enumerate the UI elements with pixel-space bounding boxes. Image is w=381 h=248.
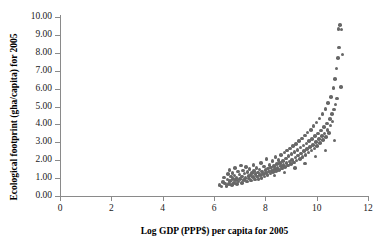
data-point <box>303 134 307 138</box>
data-point <box>309 128 313 132</box>
data-point <box>324 135 328 139</box>
plot-area <box>60 17 368 196</box>
data-point <box>336 56 340 60</box>
x-tick-mark <box>214 196 215 201</box>
x-tick-label: 10 <box>312 203 322 213</box>
data-point <box>303 162 307 166</box>
x-tick-mark <box>60 196 61 201</box>
data-point <box>293 166 297 170</box>
x-tick-mark <box>368 196 369 201</box>
data-point <box>329 95 333 99</box>
data-point <box>327 131 331 135</box>
data-point <box>339 85 343 89</box>
x-tick-mark <box>163 196 164 201</box>
x-tick-mark <box>265 196 266 201</box>
data-point <box>321 138 325 142</box>
x-tick-mark <box>111 196 112 201</box>
x-tick-label: 12 <box>363 203 373 213</box>
x-tick-label: 8 <box>263 203 268 213</box>
x-tick-label: 4 <box>160 203 165 213</box>
data-point <box>333 77 337 81</box>
data-point <box>324 107 328 111</box>
y-axis-title: Ecological footprint (gha/capita) for 20… <box>9 11 23 224</box>
data-point <box>332 86 336 90</box>
x-tick-mark <box>317 196 318 201</box>
data-point <box>240 181 244 185</box>
data-point <box>245 180 249 184</box>
x-tick-label: 0 <box>58 203 63 213</box>
data-point <box>239 164 243 168</box>
data-point <box>338 23 342 27</box>
data-point <box>233 166 237 170</box>
x-tick-label: 2 <box>109 203 114 213</box>
x-axis-title: Log GDP (PPP$) per capita for 2005 <box>60 226 369 236</box>
scatter-chart-figure: 0.001.002.003.004.005.006.007.008.009.00… <box>0 0 381 248</box>
data-point <box>321 112 325 116</box>
x-tick-label: 6 <box>212 203 217 213</box>
data-point <box>259 161 263 165</box>
data-point <box>332 108 336 112</box>
data-point <box>300 137 304 141</box>
data-point <box>330 112 334 116</box>
